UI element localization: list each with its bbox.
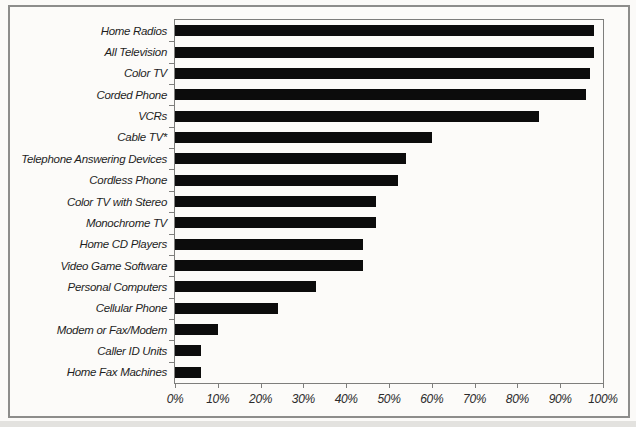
y-axis-tick <box>169 340 174 341</box>
y-axis-tick <box>169 148 174 149</box>
x-axis-tick <box>218 383 219 388</box>
x-axis-tick <box>432 383 433 388</box>
x-tick-label: 60% <box>420 393 443 405</box>
category-label: Home Radios <box>101 26 167 38</box>
category-label: Telephone Answering Devices <box>21 154 167 166</box>
y-axis-tick <box>169 319 174 320</box>
y-axis-tick <box>169 127 174 128</box>
bar <box>175 217 376 228</box>
x-tick-label: 0% <box>167 393 184 405</box>
x-tick-label: 20% <box>249 393 272 405</box>
x-tick-label: 80% <box>506 393 529 405</box>
x-axis-tick <box>346 383 347 388</box>
bar <box>175 239 363 250</box>
bar <box>175 345 201 356</box>
category-label: Cable TV* <box>117 132 167 144</box>
y-axis-tick <box>169 84 174 85</box>
x-axis-tick <box>603 383 604 388</box>
x-tick-label: 70% <box>463 393 486 405</box>
y-axis-tick <box>169 298 174 299</box>
category-label: Monochrome TV <box>86 218 167 230</box>
bar <box>175 47 594 58</box>
x-tick-label: 100% <box>588 393 618 405</box>
y-axis-tick <box>169 234 174 235</box>
chart-frame: Home RadiosAll TelevisionColor TVCorded … <box>8 5 630 418</box>
y-axis-tick <box>169 105 174 106</box>
category-label: Modem or Fax/Modem <box>57 325 167 337</box>
y-axis-tick <box>169 276 174 277</box>
category-label: Cordless Phone <box>89 175 167 187</box>
bar <box>175 196 376 207</box>
category-label: Caller ID Units <box>97 346 167 358</box>
category-label: Color TV with Stereo <box>67 197 167 209</box>
category-label: VCRs <box>138 111 167 123</box>
x-axis-tick <box>389 383 390 388</box>
x-axis-tick <box>560 383 561 388</box>
category-label: Personal Computers <box>68 282 167 294</box>
x-axis-tick <box>303 383 304 388</box>
bar <box>175 111 539 122</box>
category-label: Home CD Players <box>79 239 167 251</box>
y-axis-tick <box>169 41 174 42</box>
x-tick-label: 10% <box>206 393 229 405</box>
y-axis-tick <box>169 212 174 213</box>
bar <box>175 260 363 271</box>
x-tick-label: 90% <box>549 393 572 405</box>
category-label: All Television <box>105 47 168 59</box>
bar <box>175 175 398 186</box>
y-axis-tick <box>169 63 174 64</box>
x-tick-label: 30% <box>292 393 315 405</box>
category-label: Home Fax Machines <box>67 367 167 379</box>
category-label: Cellular Phone <box>96 303 167 315</box>
bar <box>175 367 201 378</box>
x-axis-tick <box>517 383 518 388</box>
x-tick-label: 50% <box>377 393 400 405</box>
x-tick-label: 40% <box>335 393 358 405</box>
bar <box>175 303 278 314</box>
bar <box>175 89 586 100</box>
chart-canvas: Home RadiosAll TelevisionColor TVCorded … <box>0 0 636 427</box>
bar <box>175 324 218 335</box>
bar <box>175 68 590 79</box>
bar <box>175 132 432 143</box>
x-axis-tick <box>175 383 176 388</box>
category-label: Video Game Software <box>60 261 167 273</box>
y-axis-tick <box>169 169 174 170</box>
x-axis-tick <box>261 383 262 388</box>
y-axis-tick <box>169 362 174 363</box>
plot-area <box>174 19 604 384</box>
category-label: Color TV <box>124 68 167 80</box>
y-axis-tick <box>169 255 174 256</box>
x-axis-tick <box>475 383 476 388</box>
bar <box>175 153 406 164</box>
y-axis-tick <box>169 191 174 192</box>
bar <box>175 25 594 36</box>
category-label: Corded Phone <box>96 90 167 102</box>
bar <box>175 281 316 292</box>
